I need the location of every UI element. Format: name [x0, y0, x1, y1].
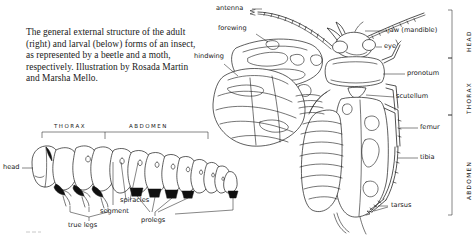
label-pronotum: pronotum	[407, 70, 439, 77]
region-label-head: HEAD	[466, 30, 472, 52]
label-tibia: tibia	[420, 154, 434, 161]
beetle-head	[327, 22, 376, 60]
larva-label-prolegs: prolegs	[141, 217, 165, 224]
larva-region-label-thorax: THORAX	[54, 123, 86, 129]
figure-page: The general external structure of the ad…	[0, 0, 472, 238]
larva-region-brackets	[42, 132, 208, 139]
body-region-brackets	[448, 10, 452, 215]
label-hindwing: hindwing	[194, 53, 224, 60]
larva-anal-segment	[224, 172, 238, 193]
label-scutellum: scutellum	[396, 93, 428, 100]
beetle-pronotum	[325, 57, 384, 87]
region-label-abdomen: ABDOMEN	[466, 161, 472, 200]
label-eye: eye	[384, 43, 396, 50]
adult-beetle-drawing	[213, 9, 452, 234]
beetle-scutellum	[348, 87, 366, 98]
larva-label-head: head	[3, 164, 19, 171]
region-label-thorax: THORAX	[466, 82, 472, 114]
larva-drawing	[22, 132, 238, 221]
beetle-abdomen	[334, 97, 388, 217]
label-tarsus: tarsus	[391, 202, 411, 209]
larva-label-spiracles: spiracles	[120, 197, 149, 204]
larva-region-label-abdomen: ABDOMEN	[129, 123, 168, 129]
label-forewing: forewing	[218, 25, 247, 32]
label-jaw-mandible: jaw (mandible)	[388, 27, 437, 34]
label-femur: femur	[420, 124, 440, 131]
label-antenna: antenna	[216, 5, 243, 12]
larva-label-true-legs: true legs	[68, 222, 97, 229]
beetle-abdomen-segments	[300, 110, 343, 212]
larva-label-segment: segment	[100, 208, 129, 215]
